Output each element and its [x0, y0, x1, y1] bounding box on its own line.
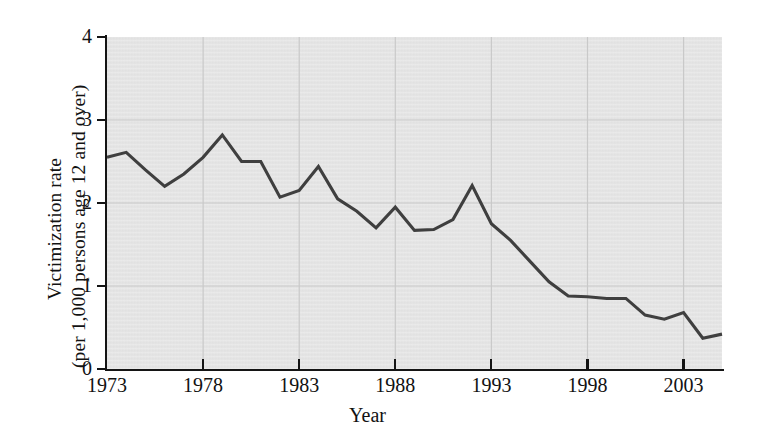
x-tick-label-1993: 1993	[471, 374, 511, 396]
y-tick-label-4: 4	[58, 26, 92, 46]
x-tick-label-1978: 1978	[183, 374, 223, 396]
x-tick-1998	[586, 359, 588, 370]
y-tick-0	[97, 368, 107, 370]
x-axis-title: Year	[0, 404, 761, 427]
y-tick-label-2: 2	[58, 192, 92, 212]
x-axis-spine	[105, 369, 724, 371]
y-tick-label-3: 3	[58, 109, 92, 129]
y-tick-label-1: 1	[58, 275, 92, 295]
x-tick-label-1988: 1988	[375, 374, 415, 396]
y-tick-2	[97, 202, 107, 204]
y-tick-1	[97, 285, 107, 287]
y-tick-4	[97, 36, 107, 38]
x-tick-label-2003: 2003	[664, 374, 704, 396]
x-tick-1993	[490, 359, 492, 370]
x-tick-label-1973: 1973	[87, 374, 127, 396]
x-tick-label-1998: 1998	[567, 374, 607, 396]
chart-figure: Victimization rate (per 1,000 persons ag…	[0, 0, 761, 448]
x-tick-2003	[682, 359, 684, 370]
x-tick-1983	[298, 359, 300, 370]
y-tick-3	[97, 119, 107, 121]
x-axis-title-text: Year	[349, 404, 386, 426]
y-axis-tick-labels: 01234	[52, 0, 92, 400]
plot-area	[107, 37, 722, 369]
x-tick-label-1983: 1983	[279, 374, 319, 396]
x-tick-1988	[394, 359, 396, 370]
x-tick-1978	[202, 359, 204, 370]
